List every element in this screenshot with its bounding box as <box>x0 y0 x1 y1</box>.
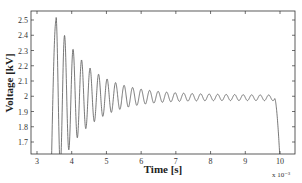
y-tick-label: 2.5 <box>18 16 28 25</box>
y-axis-label: Voltage [kV] <box>3 53 15 112</box>
x-axis-label: Time [s] <box>144 163 183 175</box>
plot-area <box>52 18 280 161</box>
x-tick-label: 10 <box>276 157 284 166</box>
y-tick-label: 2 <box>24 92 28 101</box>
voltage-line <box>52 18 280 161</box>
x-multiplier-label: x 10⁻³ <box>272 171 290 179</box>
plot-frame <box>31 11 295 154</box>
y-tick-label: 1.9 <box>18 108 28 117</box>
y-tick-label: 1.8 <box>18 123 28 132</box>
x-tick-label: 9 <box>243 157 247 166</box>
y-tick-label: 2.4 <box>18 31 28 40</box>
x-tick-label: 8 <box>209 157 213 166</box>
x-tick-label: 3 <box>35 157 39 166</box>
y-tick-label: 2.1 <box>18 77 28 86</box>
y-tick-label: 2.2 <box>18 62 28 71</box>
y-tick-label: 2.3 <box>18 47 28 56</box>
voltage-chart: 3456789101.71.81.922.12.22.32.42.5 Time … <box>0 0 302 183</box>
y-tick-label: 1.7 <box>18 138 28 147</box>
x-tick-label: 6 <box>139 157 143 166</box>
x-tick-label: 4 <box>70 157 74 166</box>
x-tick-label: 5 <box>104 157 108 166</box>
